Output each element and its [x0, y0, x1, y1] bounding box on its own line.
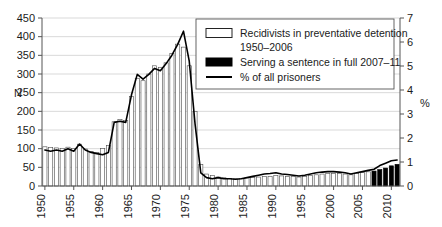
bar-recidivists — [210, 176, 214, 186]
y-axis-ticks: 050100150200250300350400450 — [17, 12, 42, 192]
chart-figure: 050100150200250300350400450 01234567 195… — [0, 0, 442, 227]
y-tick-label: 450 — [17, 12, 35, 24]
bar-recidivists — [303, 176, 307, 186]
x-tick-label: 1995 — [295, 194, 307, 218]
bar-recidivists — [118, 120, 122, 186]
y-tick-label: 350 — [17, 49, 35, 61]
x-tick-label: 1975 — [179, 194, 191, 218]
bar-full-sentence — [372, 171, 376, 186]
bar-recidivists — [291, 177, 295, 186]
y2-tick-label: 1 — [407, 156, 413, 168]
legend-label: % of all prisoners — [240, 71, 321, 83]
x-tick-label: 1970 — [150, 194, 162, 218]
bar-recidivists — [274, 176, 278, 186]
y-tick-label: 50 — [23, 161, 35, 173]
chart-container: 050100150200250300350400450 01234567 195… — [0, 0, 442, 227]
bar-recidivists — [147, 74, 151, 186]
y-tick-label: 150 — [17, 124, 35, 136]
x-tick-label: 1950 — [35, 194, 47, 218]
legend-label: Serving a sentence in full 2007–11 — [240, 56, 400, 68]
bar-recidivists — [66, 147, 70, 186]
x-tick-label: 2010 — [381, 194, 393, 218]
y2-tick-label: 7 — [407, 12, 413, 24]
bar-recidivists — [129, 96, 133, 186]
bar-recidivists — [141, 81, 145, 186]
bar-recidivists — [89, 152, 93, 186]
bar-recidivists — [95, 152, 99, 186]
x-tick-label: 1960 — [93, 194, 105, 218]
bar-recidivists — [332, 173, 336, 186]
y2-tick-label: 2 — [407, 132, 413, 144]
bar-recidivists — [297, 177, 301, 186]
y-axis-title: N — [14, 87, 22, 99]
bar-recidivists — [158, 67, 162, 186]
x-tick-label: 1965 — [122, 194, 134, 218]
bar-recidivists — [366, 172, 370, 186]
x-axis-ticks: 1950195519601965197019751980198519901995… — [35, 186, 393, 218]
y2-axis-title: % — [420, 97, 430, 109]
bar-recidivists — [54, 148, 58, 186]
y2-tick-label: 6 — [407, 36, 413, 48]
bar-recidivists — [153, 66, 157, 186]
y-tick-label: 400 — [17, 30, 35, 42]
bar-recidivists — [256, 177, 260, 186]
bar-recidivists — [314, 175, 318, 186]
bar-recidivists — [355, 174, 359, 186]
bar-recidivists — [262, 177, 266, 186]
x-tick-label: 2000 — [324, 194, 336, 218]
bar-recidivists — [349, 175, 353, 186]
bar-recidivists — [135, 78, 139, 186]
x-tick-label: 1990 — [266, 194, 278, 218]
bar-recidivists — [60, 148, 64, 186]
bar-recidivists — [343, 174, 347, 186]
bar-recidivists — [280, 176, 284, 186]
bar-full-sentence — [389, 166, 393, 186]
chart-legend: Recidivists in preventative detention195… — [196, 19, 408, 89]
bar-full-sentence — [378, 170, 382, 186]
y-tick-label: 100 — [17, 142, 35, 154]
bar-recidivists — [170, 53, 174, 186]
bar-recidivists — [72, 149, 76, 186]
bar-full-sentence — [383, 168, 387, 186]
bar-recidivists — [77, 144, 81, 186]
x-tick-label: 1955 — [64, 194, 76, 218]
bar-recidivists — [360, 173, 364, 186]
axis-labels: N% — [14, 87, 430, 110]
x-tick-label: 1980 — [208, 194, 220, 218]
legend-swatch-solid-bar — [206, 58, 232, 66]
bar-recidivists — [124, 121, 128, 186]
bar-recidivists — [337, 174, 341, 186]
y2-tick-label: 5 — [407, 60, 413, 72]
bar-recidivists — [181, 47, 185, 186]
legend-label: Recidivists in preventative detention — [240, 27, 408, 39]
legend-swatch-open-bar — [206, 29, 232, 38]
y2-tick-label: 3 — [407, 108, 413, 120]
bar-recidivists — [326, 174, 330, 186]
bar-recidivists — [308, 176, 312, 186]
bar-recidivists — [251, 177, 255, 186]
legend-label-second-line: 1950–2006 — [240, 41, 293, 53]
y2-tick-label: 0 — [407, 180, 413, 192]
y-tick-label: 200 — [17, 105, 35, 117]
bar-recidivists — [49, 148, 53, 186]
bar-recidivists — [320, 174, 324, 186]
x-tick-label: 2005 — [352, 194, 364, 218]
x-tick-label: 1985 — [237, 194, 249, 218]
bar-full-sentence — [395, 164, 399, 186]
bar-recidivists — [245, 178, 249, 186]
bar-recidivists — [176, 44, 180, 186]
y-tick-label: 0 — [29, 180, 35, 192]
bar-recidivists — [164, 63, 168, 186]
y-tick-label: 300 — [17, 68, 35, 80]
bar-recidivists — [43, 147, 47, 186]
bar-recidivists — [83, 149, 87, 186]
bar-recidivists — [268, 176, 272, 186]
bar-recidivists — [285, 176, 289, 186]
y2-tick-label: 4 — [407, 84, 413, 96]
